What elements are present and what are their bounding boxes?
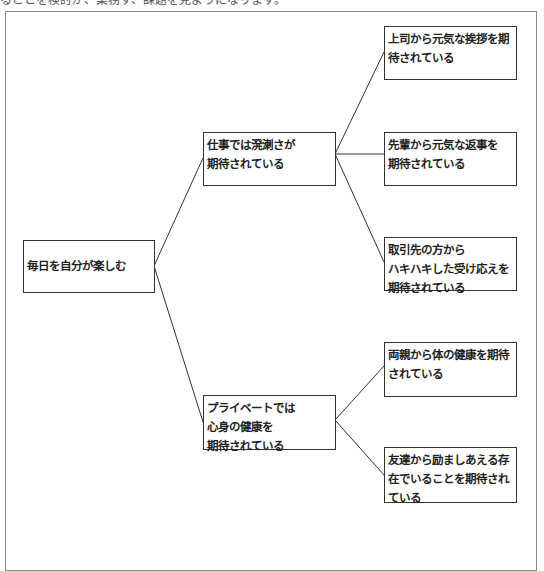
node-text: 毎日を自分が楽しむ	[27, 257, 126, 276]
root-node: 毎日を自分が楽しむ	[23, 240, 155, 293]
node-text: 期待されている	[388, 155, 514, 174]
node-text: 心身の健康を	[207, 418, 333, 437]
node-text: プライベートでは	[207, 399, 333, 418]
branch-node-private: プライベートでは 心身の健康を 期待されている	[203, 395, 336, 450]
leaf-node-boss: 上司から元気な挨拶を期 待されている	[384, 26, 517, 80]
node-text: 仕事では溌溂さが	[207, 136, 333, 155]
node-text: 期待されている	[388, 279, 514, 298]
leaf-node-parents: 両親から体の健康を期待 されている	[384, 342, 517, 397]
node-text: 先輩から元気な返事を	[388, 136, 514, 155]
leaf-node-senior: 先輩から元気な返事を 期待されている	[384, 132, 517, 186]
node-text: 上司から元気な挨拶を期	[388, 30, 514, 49]
node-text: 待されている	[388, 49, 514, 68]
leaf-node-friends: 友達から励ましあえる存 在でいることを期待され ている	[384, 447, 517, 503]
node-text: 両親から体の健康を期待	[388, 346, 514, 365]
node-text: 期待されている	[207, 155, 333, 174]
node-text: 取引先の方から	[388, 241, 514, 260]
node-text: 期待されている	[207, 437, 333, 456]
leaf-node-client: 取引先の方から ハキハキした受け応えを 期待されている	[384, 237, 517, 291]
branch-node-work: 仕事では溌溂さが 期待されている	[203, 132, 336, 186]
node-text: ている	[388, 489, 514, 508]
node-text: 友達から励ましあえる存	[388, 451, 514, 470]
node-text: されている	[388, 365, 514, 384]
node-text: 在でいることを期待され	[388, 470, 514, 489]
node-text: ハキハキした受け応えを	[388, 260, 514, 279]
